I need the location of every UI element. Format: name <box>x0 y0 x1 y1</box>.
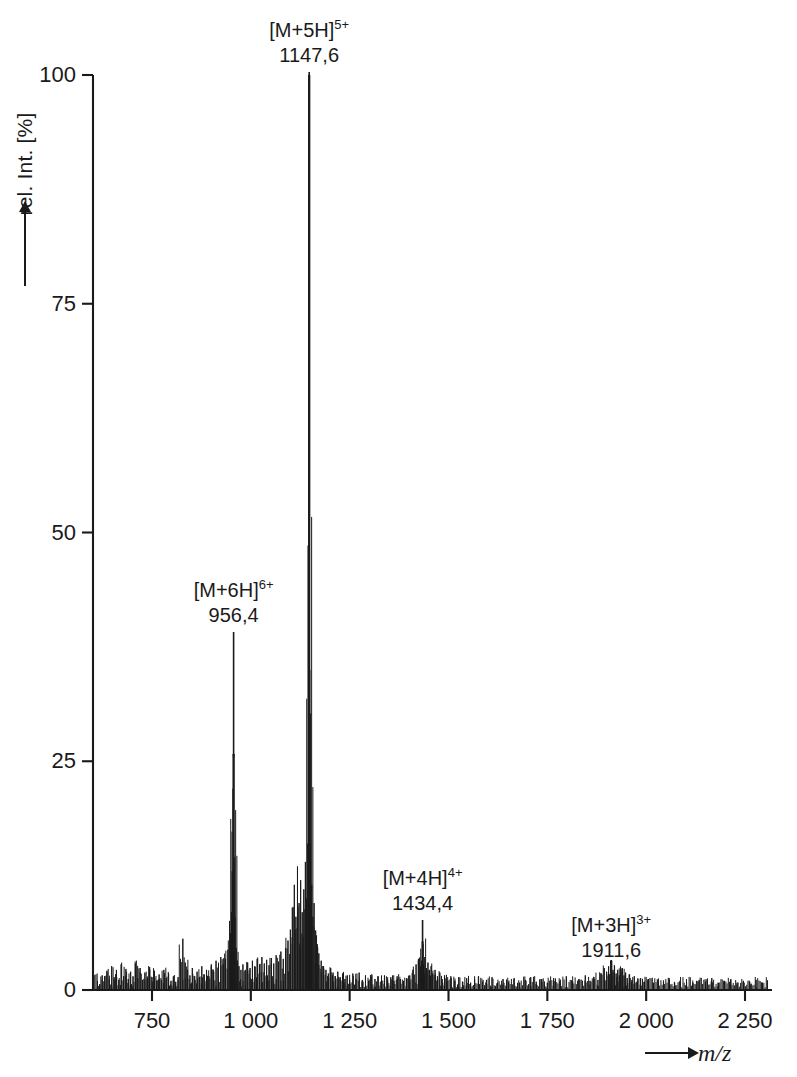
spectrum-trace <box>93 75 769 990</box>
spectrum-envelope <box>93 75 769 990</box>
x-axis-label: m/z <box>698 1040 731 1067</box>
spectrum-plot <box>0 0 797 1077</box>
axis-lines <box>82 75 772 1001</box>
annotation-leader-lines <box>234 72 612 967</box>
right-arrow-icon <box>645 1052 691 1054</box>
mass-spectrum-figure: rel. Int. [%] 0255075100 7501 0001 2501 … <box>0 0 797 1077</box>
x-axis-label-block: m/z <box>645 1038 731 1068</box>
